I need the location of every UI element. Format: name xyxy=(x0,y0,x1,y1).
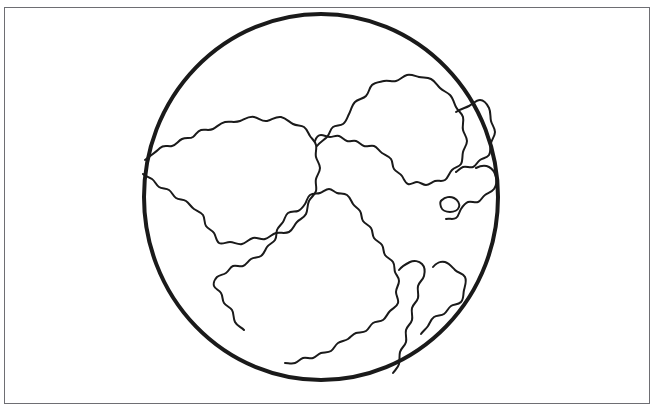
illustration-canvas: Earth globe line drawing xyxy=(0,0,656,408)
globe-illustration xyxy=(0,0,656,408)
